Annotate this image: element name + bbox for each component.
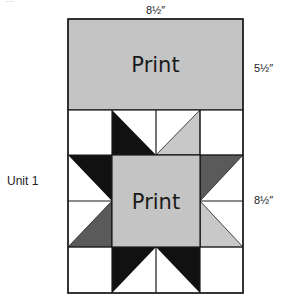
center-print-label: Print <box>132 190 180 214</box>
quilt-diagram: Print Print <box>0 0 288 300</box>
print-panel-label: Print <box>131 53 179 77</box>
